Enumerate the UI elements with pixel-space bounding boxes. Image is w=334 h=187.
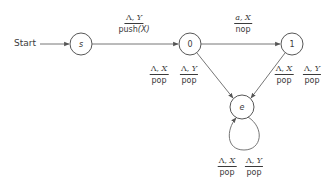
label-0-to-e-y: Λ, Y pop [180, 64, 198, 85]
label-0-to-e-x: Λ, X pop [150, 64, 169, 85]
edge-e-loop [229, 117, 259, 150]
label-stack: , X [240, 13, 251, 22]
label-action-arg: (X) [138, 25, 150, 34]
label-action: pop [219, 167, 234, 177]
state-0-label: 0 [187, 40, 192, 49]
label-s-to-0: Λ, Y push(X) [118, 13, 149, 34]
state-1-label: 1 [289, 40, 294, 49]
label-action: pop [304, 75, 319, 85]
automaton-diagram [0, 0, 334, 187]
state-s-label: s [79, 40, 83, 49]
label-stack: Y [257, 156, 262, 165]
label-action: pop [151, 75, 166, 85]
label-0-to-1: a, X nop [234, 13, 252, 34]
label-input: Λ, [276, 64, 287, 73]
label-action: pop [276, 75, 291, 85]
label-input: Λ, [219, 156, 230, 165]
label-e-loop-x: Λ, X pop [218, 156, 237, 177]
label-1-to-e-x: Λ, X pop [275, 64, 294, 85]
label-e-loop-y: Λ, Y pop [245, 156, 263, 177]
start-label: Start [14, 38, 36, 48]
label-input: Λ, [181, 64, 192, 73]
label-input: Λ, [151, 64, 162, 73]
label-stack: Y [192, 64, 197, 73]
label-action: pop [181, 75, 196, 85]
label-action: nop [235, 24, 250, 34]
edge-0-to-e [197, 53, 233, 98]
label-input: Λ, [126, 13, 137, 22]
label-stack: Y [315, 64, 320, 73]
label-input: Λ, [304, 64, 315, 73]
label-stack: X [230, 156, 236, 165]
label-action: pop [246, 167, 261, 177]
label-input: Λ, [246, 156, 257, 165]
label-action: push [118, 25, 137, 34]
label-stack: X [287, 64, 293, 73]
label-stack: X [162, 64, 168, 73]
state-e-label: e [240, 103, 245, 112]
label-1-to-e-y: Λ, Y pop [303, 64, 321, 85]
label-stack: Y [137, 13, 142, 22]
